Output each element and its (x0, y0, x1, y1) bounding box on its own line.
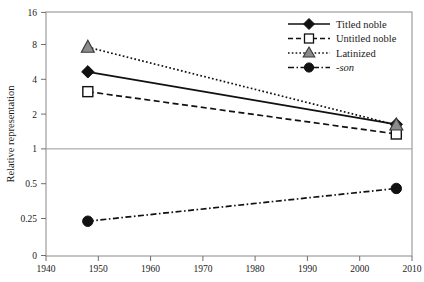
x-tick-label-1950: 1950 (89, 264, 108, 274)
legend-marker-filled-circle-icon (304, 63, 313, 72)
relative-representation-line-chart: 16 8 4 2 1 0.5 0.25 0 Relative represent… (0, 0, 424, 282)
y-tick-label-0point5: 0.5 (25, 179, 37, 189)
series-marker-son (391, 183, 401, 193)
y-tick-label-0point25: 0.25 (20, 214, 37, 224)
y-tick-label-2: 2 (32, 110, 37, 120)
legend-marker-open-square-icon (305, 34, 314, 43)
legend-label-latinized: Latinized (336, 48, 376, 59)
x-tick-label-2000: 2000 (350, 264, 369, 274)
y-tick-label-4: 4 (32, 75, 37, 85)
legend-label-titled-noble: Titled noble (336, 19, 387, 30)
x-tick-label-1940: 1940 (37, 264, 56, 274)
series-marker-son (83, 216, 93, 226)
x-tick-label-2010: 2010 (403, 264, 422, 274)
y-tick-label-8: 8 (32, 40, 37, 50)
x-tick-label-1970: 1970 (193, 264, 212, 274)
y-tick-label-1: 1 (32, 144, 37, 154)
x-tick-label-1980: 1980 (246, 264, 265, 274)
y-tick-label-0: 0 (32, 251, 37, 261)
x-tick-label-1960: 1960 (141, 264, 160, 274)
series-marker-untitled-noble (83, 87, 93, 97)
x-tick-label-1990: 1990 (298, 264, 317, 274)
y-tick-label-16: 16 (28, 8, 38, 18)
legend-label-untitled-noble: Untitled noble (336, 33, 397, 44)
chart-container: 16 8 4 2 1 0.5 0.25 0 Relative represent… (0, 0, 424, 282)
legend-label-son: -son (336, 62, 354, 73)
y-axis-title: Relative representation (5, 85, 16, 183)
